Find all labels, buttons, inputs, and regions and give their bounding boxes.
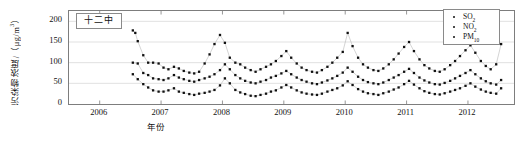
data-point [490,68,492,70]
data-point [270,90,272,92]
data-point [157,90,159,92]
data-point [413,83,415,85]
data-point [275,89,277,91]
data-point [347,32,349,34]
data-point [351,84,353,86]
data-point [224,42,226,44]
data-point [423,90,425,92]
data-point [204,92,206,94]
data-point [357,57,359,59]
data-point [285,50,287,52]
data-point [229,57,231,59]
data-point [239,91,241,93]
data-point [480,60,482,62]
data-point [434,93,436,95]
data-point [198,93,200,95]
data-point [474,85,476,87]
data-point [183,92,185,94]
y-axis-title-tail: ） [10,14,20,23]
data-point [265,79,267,81]
data-point [296,89,298,91]
data-point [485,65,487,67]
data-point [147,74,149,76]
data-point [234,74,236,76]
data-point [474,52,476,54]
data-point [300,66,302,68]
legend-label: SO2 [461,12,475,23]
data-point [382,92,384,94]
data-point [244,66,246,68]
data-point [250,69,252,71]
legend-item-SO2[interactable]: SO2 [447,12,496,22]
data-point [224,63,226,65]
data-point [208,53,210,55]
legend-item-PM10[interactable]: PM10 [447,32,496,42]
data-point [500,87,502,89]
x-axis-tick-labels: 2006200720082009201020112012 [0,107,525,121]
data-point [495,93,497,95]
data-point [418,58,420,60]
data-point [372,69,374,71]
data-point [162,66,164,68]
data-point [377,70,379,72]
data-point [167,68,169,70]
data-point [142,72,144,74]
data-point [290,86,292,88]
data-point [443,68,445,70]
data-point [388,90,390,92]
data-point [464,72,466,74]
data-point [183,78,185,80]
data-point [300,91,302,93]
data-point [480,88,482,90]
data-point [418,87,420,89]
data-point [250,81,252,83]
legend-label: PM10 [461,32,479,43]
data-point [393,58,395,60]
data-point [254,82,256,84]
data-point [428,81,430,83]
legend-item-NO2[interactable]: NO2 [447,22,496,32]
data-point [275,60,277,62]
data-point [280,72,282,74]
data-point [342,84,344,86]
data-point [280,86,282,88]
data-point [204,77,206,79]
data-point [362,79,364,81]
data-point [229,82,231,84]
data-point [147,62,149,64]
data-point [377,83,379,85]
data-point [342,51,344,53]
data-point [397,86,399,88]
data-point [367,81,369,83]
data-point [204,62,206,64]
data-point [290,73,292,75]
data-point [377,94,379,96]
data-point [413,50,415,52]
data-point [132,29,134,31]
data-point [311,71,313,73]
data-point [336,75,338,77]
data-point [198,79,200,81]
data-point [290,57,292,59]
y-tick-label-100: 100 [36,57,62,65]
data-point [316,94,318,96]
data-point [132,73,134,75]
data-point [142,54,144,56]
data-point [300,79,302,81]
data-point [157,78,159,80]
data-point [347,80,349,82]
data-point [147,86,149,88]
data-point [244,93,246,95]
data-point [454,89,456,91]
data-point [305,69,307,71]
data-point [388,63,390,65]
data-point [173,66,175,68]
data-point [219,69,221,71]
data-point [213,43,215,45]
data-point [250,95,252,97]
data-point [178,67,180,69]
data-point [449,90,451,92]
data-point [393,76,395,78]
legend-marker-icon [447,36,461,38]
data-point [372,93,374,95]
